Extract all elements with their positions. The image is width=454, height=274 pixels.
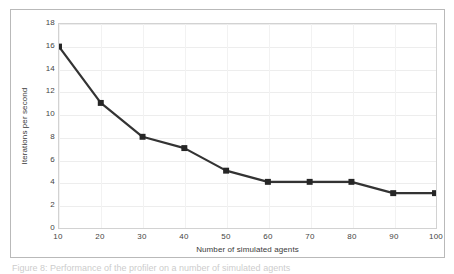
data-point-marker bbox=[58, 44, 62, 50]
series-line-chart bbox=[59, 24, 436, 228]
plot-area bbox=[58, 23, 437, 229]
x-tick-label: 90 bbox=[374, 232, 414, 241]
data-point-marker bbox=[390, 190, 396, 196]
y-axis-title-container: Iterations per second bbox=[17, 23, 31, 229]
x-axis-title: Number of simulated agents bbox=[58, 245, 437, 255]
x-axis-tick-labels: 102030405060708090100 bbox=[58, 232, 437, 246]
x-tick-label: 50 bbox=[206, 232, 246, 241]
series-markers bbox=[58, 44, 437, 197]
x-tick-label: 10 bbox=[38, 232, 78, 241]
data-point-marker bbox=[223, 168, 229, 174]
data-point-marker bbox=[307, 179, 313, 185]
x-tick-label: 60 bbox=[248, 232, 288, 241]
x-tick-label: 30 bbox=[122, 232, 162, 241]
data-point-marker bbox=[98, 100, 104, 106]
x-tick-label: 80 bbox=[332, 232, 372, 241]
y-axis-title: Iterations per second bbox=[20, 88, 29, 165]
series-line bbox=[59, 47, 435, 194]
figure-caption: Figure 8: Performance of the profiler on… bbox=[12, 263, 442, 274]
data-point-marker bbox=[348, 179, 354, 185]
x-tick-label: 20 bbox=[80, 232, 120, 241]
data-point-marker bbox=[432, 190, 437, 196]
data-point-marker bbox=[265, 179, 271, 185]
x-tick-label: 70 bbox=[290, 232, 330, 241]
x-tick-label: 100 bbox=[416, 232, 454, 241]
data-point-marker bbox=[181, 145, 187, 151]
x-tick-label: 40 bbox=[164, 232, 204, 241]
chart-frame: 024681012141618 Iterations per second 10… bbox=[10, 9, 445, 258]
data-point-marker bbox=[140, 134, 146, 140]
